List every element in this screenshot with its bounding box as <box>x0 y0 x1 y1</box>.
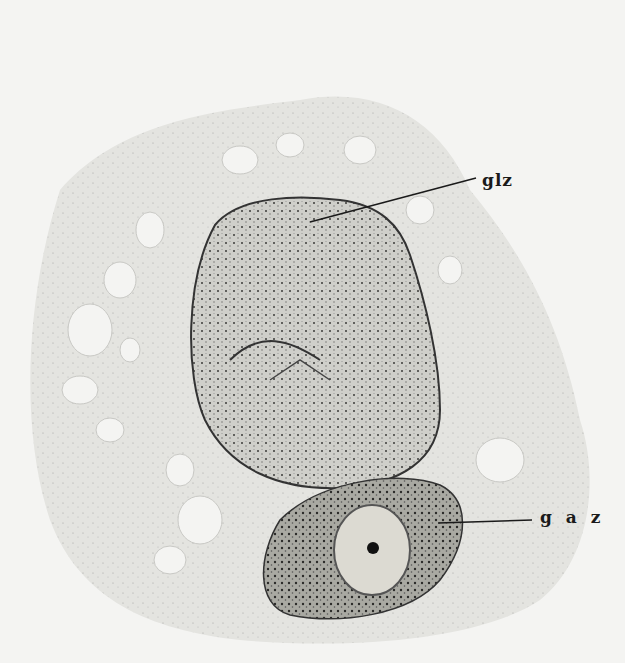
upper-cell-body <box>191 198 440 489</box>
label-glz: glz <box>482 170 513 190</box>
nucleolus <box>367 542 379 554</box>
histology-illustration <box>0 0 625 663</box>
label-gaz: g a z <box>540 507 604 527</box>
